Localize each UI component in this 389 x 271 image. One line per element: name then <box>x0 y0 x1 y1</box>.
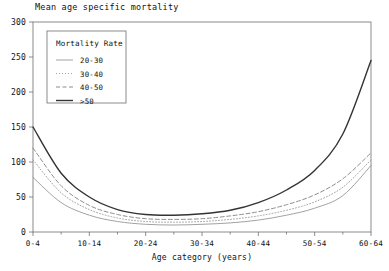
x-axis-title: Age category (years) <box>152 253 252 262</box>
legend-title: Mortality Rate <box>56 39 123 48</box>
legend-label: 40-50 <box>80 83 103 92</box>
y-tick-label: 200 <box>11 88 26 97</box>
chart-legend: Mortality Rate20-3030-4040-50>50 <box>47 31 126 106</box>
x-tick-label: 30-34 <box>190 239 214 248</box>
legend-label: 30-40 <box>80 70 103 79</box>
y-tick-label: 100 <box>11 158 26 167</box>
y-tick-label: 50 <box>16 193 26 202</box>
x-tick-label: 40-44 <box>246 239 270 248</box>
y-tick-label: 0 <box>21 228 26 237</box>
x-tick-label: 50-54 <box>303 239 327 248</box>
y-axis: 050100150200250300 <box>11 18 33 237</box>
x-tick-label: 20-24 <box>134 239 158 248</box>
chart-figure: Mean age specific mortality 050100150200… <box>0 0 389 271</box>
y-tick-label: 250 <box>11 53 26 62</box>
x-axis: 0-410-1420-2430-3440-4450-5460-64 <box>26 232 383 248</box>
y-tick-label: 300 <box>11 18 26 27</box>
series-line <box>33 166 371 226</box>
x-tick-label: 60-64 <box>359 239 383 248</box>
series-line <box>33 148 371 219</box>
legend-label: >50 <box>80 97 94 106</box>
y-tick-label: 150 <box>11 123 26 132</box>
mortality-line-chart: 050100150200250300 0-410-1420-2430-3440-… <box>0 0 389 271</box>
x-tick-label: 0-4 <box>26 239 41 248</box>
x-tick-label: 10-14 <box>77 239 101 248</box>
legend-label: 20-30 <box>80 56 103 65</box>
